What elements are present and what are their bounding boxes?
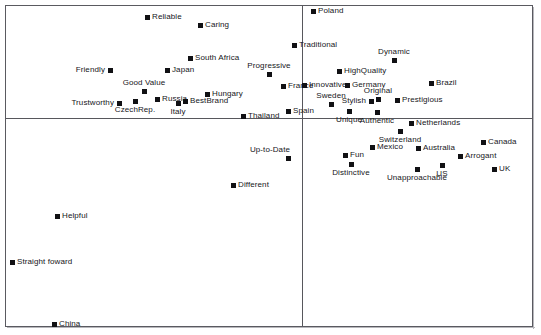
point-marker [241, 114, 246, 119]
point-label: BestBrand [190, 96, 228, 105]
point-marker [286, 156, 291, 161]
point-marker [292, 43, 297, 48]
point-marker [108, 68, 113, 73]
perceptual-map-chart: ReliableCaringPolandTraditionalDynamicSo… [0, 0, 541, 335]
point-marker [329, 102, 334, 107]
point-marker [183, 99, 188, 104]
point-marker [398, 129, 403, 134]
vertical-axis-line [302, 6, 303, 326]
point-marker [10, 260, 15, 265]
point-marker [347, 109, 352, 114]
point-label: Prestigious [402, 95, 443, 104]
point-marker [188, 56, 193, 61]
point-label: Caring [205, 20, 229, 29]
point-marker [311, 9, 316, 14]
point-label: Dynamic [378, 47, 410, 56]
frame-shadow-right [533, 7, 534, 329]
point-label: Unique [336, 115, 362, 124]
point-label: Good Value [123, 78, 166, 87]
point-label: Poland [318, 6, 344, 15]
point-label: Australia [423, 143, 455, 152]
point-label: Innovative [309, 80, 346, 89]
point-label: Different [238, 180, 269, 189]
point-label: Authentic [360, 116, 394, 125]
point-marker [145, 15, 150, 20]
point-marker [165, 68, 170, 73]
point-label: Helpful [62, 211, 88, 220]
point-marker [176, 101, 181, 106]
point-marker [55, 214, 60, 219]
point-label: Friendly [76, 65, 105, 74]
point-label: Up-to-Date [250, 145, 290, 154]
point-label: Canada [488, 137, 517, 146]
point-label: Netherlands [416, 118, 460, 127]
point-marker [429, 81, 434, 86]
point-label: Japan [172, 65, 194, 74]
point-marker [492, 167, 497, 172]
point-label: Stylish [342, 96, 366, 105]
point-marker [155, 97, 160, 102]
point-marker [370, 145, 375, 150]
point-label: Unapproachable [387, 173, 447, 182]
point-label: Trustworthy [71, 98, 114, 107]
point-marker [281, 84, 286, 89]
point-label: Spain [293, 106, 314, 115]
point-label: Original [364, 86, 392, 95]
point-label: Thailand [248, 111, 280, 120]
point-marker [142, 89, 147, 94]
point-marker [343, 153, 348, 158]
point-marker [345, 83, 350, 88]
frame-shadow-bottom [7, 327, 535, 328]
point-label: Fun [350, 150, 364, 159]
point-marker [337, 69, 342, 74]
point-marker [286, 109, 291, 114]
point-label: Traditional [299, 40, 337, 49]
point-marker [349, 162, 354, 167]
plot-frame [5, 5, 533, 327]
point-label: China [59, 319, 80, 328]
point-marker [458, 154, 463, 159]
point-marker [375, 110, 380, 115]
point-marker [376, 97, 381, 102]
point-marker [409, 121, 414, 126]
point-marker [302, 83, 307, 88]
point-label: CzechRep. [115, 105, 155, 114]
point-marker [416, 146, 421, 151]
point-marker [369, 99, 374, 104]
point-marker [133, 99, 138, 104]
point-label: Reliable [152, 12, 182, 21]
point-label: Distinctive [332, 168, 370, 177]
point-label: Progressive [247, 61, 290, 70]
point-label: South Africa [195, 53, 239, 62]
point-label: UK [499, 164, 510, 173]
point-marker [392, 58, 397, 63]
point-label: Mexico [377, 142, 403, 151]
point-marker [481, 140, 486, 145]
point-marker [440, 163, 445, 168]
point-marker [52, 322, 57, 327]
point-marker [198, 23, 203, 28]
point-label: Arrogant [465, 151, 496, 160]
point-label: Brazil [436, 78, 457, 87]
point-marker [267, 72, 272, 77]
point-label: Straight foward [17, 257, 72, 266]
point-marker [415, 167, 420, 172]
point-marker [395, 98, 400, 103]
point-marker [231, 183, 236, 188]
point-label: HighQuality [344, 66, 386, 75]
point-label: Italy [170, 107, 185, 116]
